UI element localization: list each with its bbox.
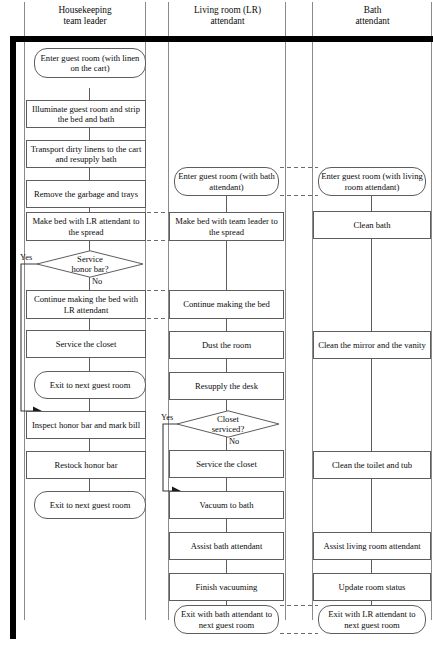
lane-header-living-room: Living room (LR) attendant: [169, 5, 286, 27]
node-ba-exit-label: Exit with LR attendant to next guest roo…: [321, 609, 423, 630]
node-lr-exit[interactable]: Exit with bath attendant to next guest r…: [174, 605, 279, 634]
node-hk-enter-label: Enter guest room (with linen on the cart…: [37, 53, 143, 74]
node-lr-assist-bath-label: Assist bath attendant: [172, 541, 281, 551]
node-lr-closet-decision-label: Closet serviced?: [176, 410, 280, 438]
lane-header-housekeeping: Housekeeping team leader: [25, 5, 145, 27]
node-hk-honorbar-decision-label: Service honor bar?: [36, 250, 144, 278]
node-lr-vacuum-bath[interactable]: Vacuum to bath: [169, 491, 284, 519]
node-lr-finish-vacuum-label: Finish vacuuming: [172, 582, 281, 592]
node-lr-makebed-label: Make bed with team leader to the spread: [172, 216, 281, 237]
node-lr-service-closet-label: Service the closet: [172, 459, 281, 469]
node-ba-clean-bath[interactable]: Clean bath: [313, 211, 431, 239]
node-lr-closet-decision[interactable]: Closet serviced?: [176, 410, 280, 438]
lane-header-housekeeping-line1: Housekeeping: [25, 5, 145, 16]
node-lr-assist-bath[interactable]: Assist bath attendant: [169, 532, 284, 560]
node-hk-restock-label: Restock honor bar: [29, 460, 143, 470]
lane-header-living-room-line1: Living room (LR): [169, 5, 286, 16]
node-hk-inspect[interactable]: Inspect honor bar and mark bill: [26, 411, 146, 439]
node-hk-closet-label: Service the closet: [29, 339, 143, 349]
node-hk-continue-bed-label: Continue making the bed with LR attendan…: [29, 294, 143, 315]
node-hk-inspect-label: Inspect honor bar and mark bill: [29, 420, 143, 430]
node-lr-service-closet[interactable]: Service the closet: [169, 450, 284, 478]
node-lr-enter-label: Enter guest room (with bath attendant): [177, 171, 276, 192]
node-hk-illuminate[interactable]: Illuminate guest room and strip the bed …: [26, 100, 146, 128]
node-hk-closet[interactable]: Service the closet: [26, 330, 146, 358]
node-ba-toilet[interactable]: Clean the toilet and tub: [313, 451, 431, 479]
lane-header-bath-line2: attendant: [313, 16, 432, 27]
lane-header-bath: Bath attendant: [313, 5, 432, 27]
node-hk-honorbar-line2: honor bar?: [72, 264, 109, 274]
node-hk-exit-2[interactable]: Exit to next guest room: [34, 491, 146, 519]
node-ba-exit[interactable]: Exit with LR attendant to next guest roo…: [318, 605, 426, 634]
node-lr-closet-line2: serviced?: [212, 424, 244, 434]
node-hk-exit-1[interactable]: Exit to next guest room: [34, 371, 146, 399]
node-hk-honorbar-decision[interactable]: Service honor bar?: [36, 250, 144, 278]
node-hk-garbage-label: Remove the garbage and trays: [29, 189, 143, 199]
node-hk-exit-2-label: Exit to next guest room: [37, 500, 143, 510]
node-hk-honorbar-line1: Service: [77, 254, 103, 264]
node-hk-transport[interactable]: Transport dirty linens to the cart and r…: [26, 140, 146, 168]
node-lr-enter[interactable]: Enter guest room (with bath attendant): [174, 167, 279, 196]
node-lr-finish-vacuum[interactable]: Finish vacuuming: [169, 573, 284, 601]
node-ba-mirror[interactable]: Clean the mirror and the vanity: [313, 331, 431, 359]
branch-label-honorbar-yes: Yes: [20, 253, 32, 262]
node-hk-illuminate-label: Illuminate guest room and strip the bed …: [29, 104, 143, 125]
node-hk-makebed[interactable]: Make bed with LR attendant to the spread: [26, 212, 146, 241]
node-lr-desk[interactable]: Resupply the desk: [169, 372, 284, 400]
branch-label-closet-no: No: [229, 437, 239, 446]
node-lr-dust[interactable]: Dust the room: [169, 331, 284, 359]
node-lr-dust-label: Dust the room: [172, 340, 281, 350]
node-lr-exit-label: Exit with bath attendant to next guest r…: [177, 609, 276, 630]
node-ba-assist-lr-label: Assist living room attendant: [316, 541, 428, 551]
branch-label-closet-yes: Yes: [161, 413, 173, 422]
node-hk-enter[interactable]: Enter guest room (with linen on the cart…: [34, 48, 146, 78]
node-ba-toilet-label: Clean the toilet and tub: [316, 460, 428, 470]
swimlane-flowchart: Housekeeping team leader Living room (LR…: [0, 0, 433, 650]
node-ba-enter-label: Enter guest room (with living room atten…: [321, 171, 423, 192]
node-ba-mirror-label: Clean the mirror and the vanity: [316, 340, 428, 350]
node-hk-garbage[interactable]: Remove the garbage and trays: [26, 180, 146, 208]
node-lr-closet-line1: Closet: [217, 414, 239, 424]
node-lr-continue-bed[interactable]: Continue making the bed: [169, 290, 284, 319]
node-lr-vacuum-bath-label: Vacuum to bath: [172, 500, 281, 510]
node-ba-clean-bath-label: Clean bath: [316, 220, 428, 230]
node-hk-exit-1-label: Exit to next guest room: [37, 380, 143, 390]
node-lr-continue-bed-label: Continue making the bed: [172, 299, 281, 309]
lane-header-living-room-line2: attendant: [169, 16, 286, 27]
header-separator-bar: [10, 36, 433, 42]
node-hk-transport-label: Transport dirty linens to the cart and r…: [29, 144, 143, 165]
node-ba-assist-lr[interactable]: Assist living room attendant: [313, 532, 431, 560]
node-ba-enter[interactable]: Enter guest room (with living room atten…: [318, 167, 426, 196]
node-lr-makebed[interactable]: Make bed with team leader to the spread: [169, 212, 284, 241]
left-spine-bar: [10, 36, 16, 639]
branch-label-honorbar-no: No: [92, 277, 102, 286]
lane-header-housekeeping-line2: team leader: [25, 16, 145, 27]
node-hk-restock[interactable]: Restock honor bar: [26, 451, 146, 479]
node-hk-continue-bed[interactable]: Continue making the bed with LR attendan…: [26, 290, 146, 319]
node-hk-makebed-label: Make bed with LR attendant to the spread: [29, 216, 143, 237]
lane-header-bath-line1: Bath: [313, 5, 432, 16]
node-ba-update[interactable]: Update room status: [313, 573, 431, 601]
node-ba-update-label: Update room status: [316, 582, 428, 592]
node-lr-desk-label: Resupply the desk: [172, 381, 281, 391]
